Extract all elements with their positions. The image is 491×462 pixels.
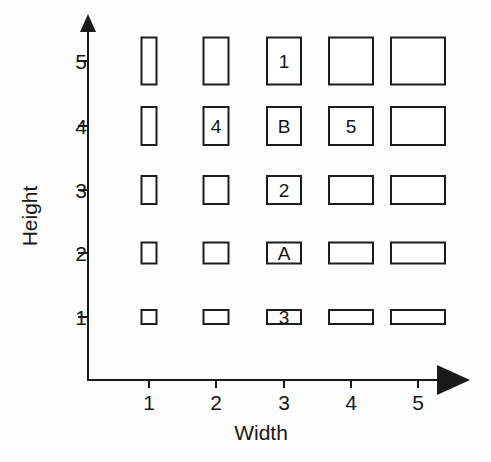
grid-rectangle-label: 2 [279,181,290,200]
grid-rectangle [390,175,446,205]
x-axis-tick-label: 5 [412,392,424,413]
x-axis-arrowhead-icon [437,365,470,395]
grid-rectangle: 3 [266,309,302,325]
scatter-chart-figure: 1234512345 14B52A3 Width Height [0,0,491,462]
grid-rectangle [203,309,230,325]
grid-rectangle [390,37,446,86]
grid-rectangle-label: 4 [211,117,222,136]
grid-rectangle [390,106,446,146]
grid-rectangle [328,37,374,86]
grid-rectangle [141,106,158,146]
y-axis-title: Height [18,186,42,247]
x-axis-tick-label: 1 [143,392,155,413]
y-axis-tick-label: 4 [75,116,87,137]
grid-rectangle [328,309,374,325]
grid-rectangle: B [266,106,302,146]
y-axis-tick-label: 2 [75,243,87,264]
grid-rectangle: A [266,242,302,265]
y-axis-arrowhead-icon [80,14,96,32]
x-axis-tick-mark [350,379,352,388]
grid-rectangle [141,309,158,325]
grid-rectangle [328,242,374,265]
grid-rectangle [328,175,374,205]
grid-rectangle [390,242,446,265]
x-axis-tick-label: 4 [345,392,357,413]
y-axis-tick-label: 3 [75,180,87,201]
grid-rectangle-label: 3 [279,308,290,327]
grid-rectangle: 4 [203,106,230,146]
x-axis-title: Width [234,421,288,445]
x-axis-line [87,379,442,381]
grid-rectangle [141,37,158,86]
x-axis-tick-label: 2 [210,392,222,413]
grid-rectangle: 1 [266,37,302,86]
x-axis-tick-mark [417,379,419,388]
grid-rectangle [203,37,230,86]
grid-rectangle [203,242,230,265]
x-axis-tick-mark [283,379,285,388]
grid-rectangle-label: B [278,117,291,136]
x-axis-tick-mark [215,379,217,388]
grid-rectangle-label: 1 [279,52,290,71]
y-axis-line [87,30,89,381]
y-axis-tick-label: 5 [75,51,87,72]
grid-rectangle [390,309,446,325]
grid-rectangle-label: 5 [346,117,357,136]
grid-rectangle-label: A [278,244,291,263]
grid-rectangle: 2 [266,175,302,205]
grid-rectangle [141,175,158,205]
grid-rectangle [141,242,158,265]
grid-rectangle [203,175,230,205]
y-axis-tick-label: 1 [75,307,87,328]
grid-rectangle: 5 [328,106,374,146]
x-axis-tick-label: 3 [278,392,290,413]
x-axis-tick-mark [148,379,150,388]
